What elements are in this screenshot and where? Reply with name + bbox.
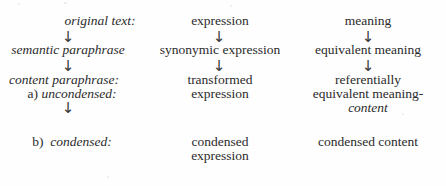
label-condensed-expression: expression — [140, 149, 300, 163]
row-content-paraphrase-level: content paraphrase: — [0, 73, 140, 87]
arrow-down-level-1: ↓ — [61, 30, 75, 45]
row-condensed-expression: condensed expression — [140, 135, 300, 163]
label-uncondensed: uncondensed: — [41, 86, 116, 101]
label-transformed-expression: expression — [140, 87, 300, 101]
label-equivalent-meaning-content: equivalent meaning- — [290, 87, 446, 101]
label-content: content — [290, 101, 446, 115]
paraphrase-diagram: original text: expression meaning ↓ ↓ ↓ … — [0, 0, 446, 186]
row-content-paraphrase-meaning: referentially equivalent meaning- conten… — [290, 73, 446, 115]
arrow-down-level-3: ↓ — [61, 101, 75, 116]
enum-b: b) — [32, 134, 43, 149]
label-condensed-content: condensed content — [290, 135, 446, 149]
label-expression: expression — [140, 14, 300, 28]
label-meaning: meaning — [290, 14, 446, 28]
arrow-down-meaning-1: ↓ — [361, 30, 375, 45]
row-original-text-meaning: meaning — [290, 14, 446, 28]
enum-a: a) — [28, 86, 39, 101]
label-transformed: transformed — [140, 73, 300, 87]
arrow-down-expression-2: ↓ — [212, 59, 226, 74]
label-content-paraphrase: content paraphrase: — [0, 73, 140, 87]
row-original-text-expression: expression — [140, 14, 300, 28]
label-condensed-word: condensed — [140, 135, 300, 149]
label-referentially: referentially — [290, 73, 446, 87]
arrow-down-expression-1: ↓ — [212, 30, 226, 45]
arrow-down-meaning-2: ↓ — [361, 59, 375, 74]
row-condensed-meaning: condensed content — [290, 135, 446, 149]
label-condensed: condensed: — [50, 134, 111, 149]
row-condensed-level: b) condensed: — [0, 135, 148, 149]
arrow-down-level-2: ↓ — [61, 59, 75, 74]
row-content-paraphrase-expression: transformed expression — [140, 73, 300, 101]
row-uncondensed-level: a) uncondensed: — [0, 87, 148, 101]
